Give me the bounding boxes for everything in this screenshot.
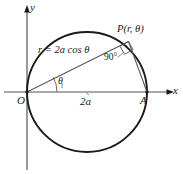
segment-pa: [129, 42, 148, 93]
origin-label: O: [17, 95, 25, 106]
angle-theta-label: θ: [58, 76, 63, 86]
right-angle-label: 90°: [104, 53, 117, 63]
point-o-marker: [25, 90, 28, 93]
right-angle-leader: [118, 52, 125, 58]
x-axis-label: x: [173, 85, 178, 96]
point-a-label: A: [140, 95, 147, 106]
radius-equation-label: r = 2a cos θ: [38, 45, 89, 56]
diameter-label: 2a: [80, 96, 91, 107]
y-axis-arrowhead: [24, 5, 30, 13]
diagram-canvas: [0, 0, 183, 174]
polar-circle-figure: y x O A 2a θ r = 2a cos θ P(r, θ) 90°: [0, 0, 183, 174]
y-axis-label: y: [30, 2, 35, 13]
angle-arc-theta: [53, 77, 57, 92]
point-p-label: P(r, θ): [117, 24, 144, 35]
